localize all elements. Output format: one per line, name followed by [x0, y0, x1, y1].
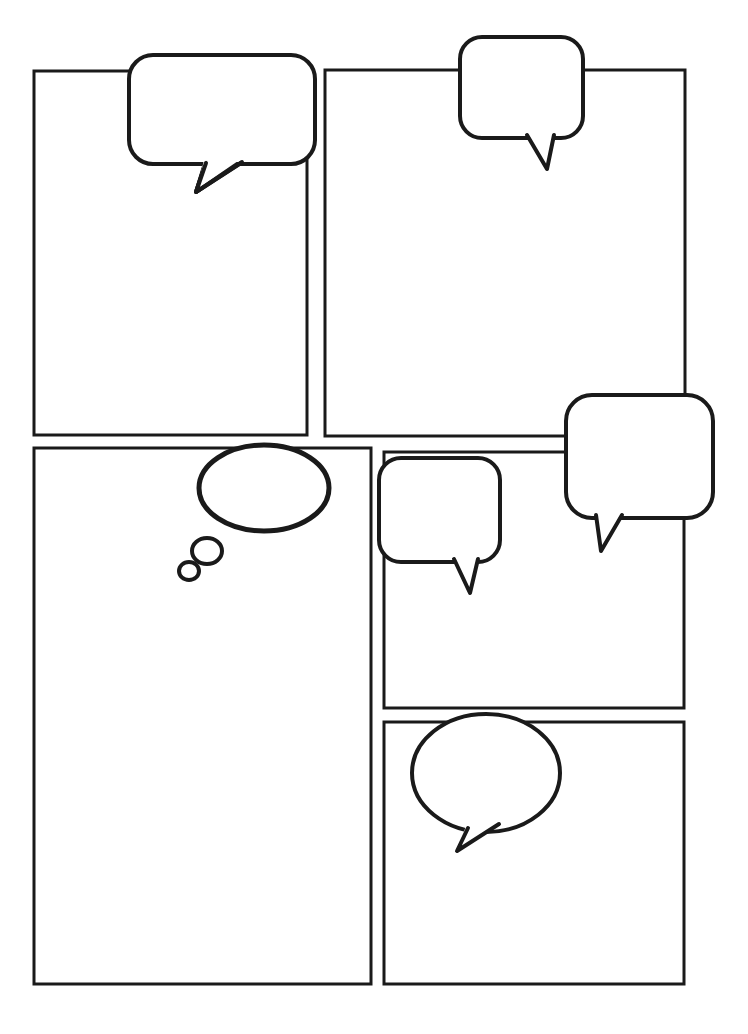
- comic-page: [0, 0, 748, 1034]
- thought-bubble-main[interactable]: [199, 445, 329, 531]
- thought-bubble-puff-small: [179, 562, 199, 580]
- speech-balloon-5-body[interactable]: [412, 714, 560, 832]
- speech-balloon-2-body[interactable]: [460, 37, 583, 138]
- speech-balloon-1-body[interactable]: [129, 55, 315, 164]
- panel-layer: [34, 70, 685, 984]
- thought-bubble-puff-large: [192, 538, 222, 564]
- comic-canvas: [0, 0, 748, 1034]
- speech-balloon-4-body[interactable]: [379, 458, 500, 562]
- speech-balloon-3-body[interactable]: [566, 395, 713, 518]
- panel-3[interactable]: [34, 448, 371, 984]
